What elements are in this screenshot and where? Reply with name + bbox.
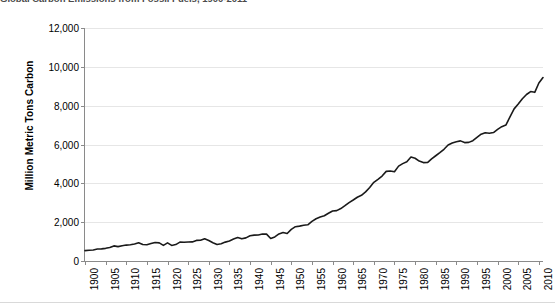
x-tick-label: 1935 (233, 268, 244, 290)
x-tick-mark (415, 261, 416, 265)
x-tick-label: 1970 (378, 268, 389, 290)
x-tick-label: 1950 (295, 268, 306, 290)
x-tick-label: 1925 (192, 268, 203, 290)
emissions-line (85, 78, 543, 251)
x-tick-label: 1900 (89, 268, 100, 290)
plot-area: 02,0004,0006,0008,00010,00012,000 190019… (84, 28, 543, 262)
x-tick-mark (539, 261, 540, 265)
x-tick-label: 1955 (316, 268, 327, 290)
x-tick-label: 2005 (522, 268, 533, 290)
x-tick-label: 1915 (151, 268, 162, 290)
y-tick-label: 4,000 (54, 178, 79, 189)
chart-figure: Global Carbon Emissions from Fossil Fuel… (0, 0, 555, 303)
x-tick-mark (209, 261, 210, 265)
x-tick-label: 1980 (419, 268, 430, 290)
x-tick-mark (312, 261, 313, 265)
chart-title: Global Carbon Emissions from Fossil Fuel… (0, 0, 520, 5)
x-tick-mark (168, 261, 169, 265)
y-tick-label: 0 (73, 256, 79, 267)
y-tick-label: 2,000 (54, 217, 79, 228)
x-tick-label: 1940 (254, 268, 265, 290)
x-tick-label: 1985 (440, 268, 451, 290)
x-tick-label: 1990 (460, 268, 471, 290)
x-tick-mark (394, 261, 395, 265)
x-tick-label: 1975 (398, 268, 409, 290)
x-tick-mark (456, 261, 457, 265)
y-tick-label: 6,000 (54, 139, 79, 150)
x-tick-mark (498, 261, 499, 265)
y-tick-label: 8,000 (54, 100, 79, 111)
x-tick-mark (126, 261, 127, 265)
x-tick-label: 1960 (337, 268, 348, 290)
x-tick-mark (477, 261, 478, 265)
x-tick-mark (106, 261, 107, 265)
x-tick-label: 1945 (275, 268, 286, 290)
series-line-chart (85, 28, 543, 261)
y-axis-title: Million Metric Tons Carbon (24, 46, 35, 206)
x-tick-label: 1965 (357, 268, 368, 290)
x-tick-mark (291, 261, 292, 265)
y-tick-label: 10,000 (48, 61, 79, 72)
x-tick-mark (229, 261, 230, 265)
x-tick-label: 1995 (481, 268, 492, 290)
x-tick-label: 2010 (543, 268, 554, 290)
x-tick-mark (85, 261, 86, 265)
x-tick-mark (518, 261, 519, 265)
x-tick-mark (250, 261, 251, 265)
y-tick-label: 12,000 (48, 23, 79, 34)
x-tick-mark (333, 261, 334, 265)
x-tick-label: 2000 (502, 268, 513, 290)
x-tick-mark (147, 261, 148, 265)
x-tick-mark (374, 261, 375, 265)
x-tick-mark (188, 261, 189, 265)
x-tick-mark (436, 261, 437, 265)
x-tick-mark (271, 261, 272, 265)
x-tick-label: 1910 (130, 268, 141, 290)
x-tick-label: 1930 (213, 268, 224, 290)
x-tick-mark (353, 261, 354, 265)
x-tick-label: 1905 (110, 268, 121, 290)
x-tick-label: 1920 (172, 268, 183, 290)
